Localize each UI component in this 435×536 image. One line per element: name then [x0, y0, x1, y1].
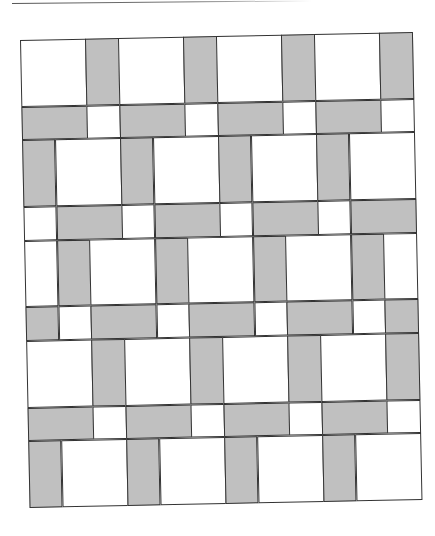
gray-rectangle-tile	[224, 436, 259, 504]
gray-rectangle-tile	[385, 333, 420, 401]
white-square-tile	[26, 339, 93, 407]
gray-rectangle-tile	[125, 404, 192, 439]
white-square-tile	[355, 433, 422, 501]
gray-rectangle-tile	[25, 307, 59, 341]
white-square-tile	[254, 302, 288, 336]
white-square-tile	[387, 400, 421, 434]
white-square-tile	[24, 240, 59, 308]
white-square-tile	[87, 105, 121, 139]
tile-row	[26, 333, 419, 408]
gray-rectangle-tile	[21, 105, 88, 140]
white-square-tile	[352, 300, 386, 334]
white-square-tile	[251, 134, 318, 202]
gray-rectangle-tile	[28, 406, 95, 441]
white-square-tile	[191, 404, 225, 438]
white-square-tile	[55, 138, 122, 206]
gray-rectangle-tile	[315, 99, 382, 134]
gray-rectangle-tile	[223, 402, 290, 437]
gray-rectangle-tile	[56, 205, 123, 240]
gray-rectangle-tile	[154, 203, 221, 238]
tile-row	[20, 32, 413, 107]
gray-rectangle-tile	[155, 237, 190, 305]
gray-rectangle-tile	[321, 400, 388, 435]
white-square-tile	[289, 402, 323, 436]
white-square-tile	[187, 236, 254, 304]
white-square-tile	[314, 33, 381, 101]
gray-rectangle-tile	[57, 239, 92, 307]
white-square-tile	[222, 335, 289, 403]
gray-rectangle-tile	[183, 36, 218, 104]
white-square-tile	[58, 306, 92, 340]
gray-rectangle-tile	[350, 199, 417, 234]
white-square-tile	[118, 37, 185, 105]
gray-rectangle-tile	[379, 32, 414, 100]
gray-rectangle-tile	[218, 136, 253, 204]
gray-rectangle-tile	[119, 103, 186, 138]
gray-rectangle-tile	[189, 337, 224, 405]
gray-rectangle-tile	[217, 101, 284, 136]
white-square-tile	[349, 132, 416, 200]
gray-rectangle-tile	[22, 140, 57, 208]
top-rule-line	[12, 0, 312, 4]
gray-rectangle-tile	[385, 299, 419, 333]
gray-rectangle-tile	[28, 440, 63, 508]
white-square-tile	[61, 439, 128, 507]
white-square-tile	[185, 103, 219, 137]
white-square-tile	[89, 238, 156, 306]
white-square-tile	[216, 35, 283, 103]
gray-rectangle-tile	[281, 34, 316, 102]
gray-rectangle-tile	[253, 235, 288, 303]
white-square-tile	[317, 200, 351, 234]
white-square-tile	[93, 406, 127, 440]
tile-row	[28, 433, 421, 508]
white-square-tile	[159, 437, 226, 505]
gray-rectangle-tile	[126, 438, 161, 506]
gray-rectangle-tile	[189, 303, 256, 338]
white-square-tile	[219, 202, 253, 236]
white-square-tile	[285, 234, 352, 302]
white-square-tile	[320, 333, 387, 401]
gray-rectangle-tile	[287, 301, 354, 336]
gray-rectangle-tile	[287, 335, 322, 403]
tiling-grid	[20, 32, 421, 508]
gray-rectangle-tile	[252, 201, 319, 236]
white-square-tile	[381, 99, 415, 133]
tile-row	[24, 233, 417, 308]
white-square-tile	[283, 101, 317, 135]
white-square-tile	[121, 204, 155, 238]
white-square-tile	[20, 39, 87, 107]
gray-rectangle-tile	[120, 138, 155, 206]
gray-rectangle-tile	[85, 38, 120, 106]
white-square-tile	[383, 233, 418, 301]
white-square-tile	[23, 206, 57, 240]
gray-rectangle-tile	[351, 233, 386, 301]
white-square-tile	[257, 435, 324, 503]
gray-rectangle-tile	[91, 305, 158, 340]
white-square-tile	[156, 304, 190, 338]
gray-rectangle-tile	[91, 339, 126, 407]
gray-rectangle-tile	[316, 134, 351, 202]
tile-row	[22, 132, 415, 207]
white-square-tile	[153, 136, 220, 204]
gray-rectangle-tile	[322, 434, 357, 502]
white-square-tile	[124, 337, 191, 405]
